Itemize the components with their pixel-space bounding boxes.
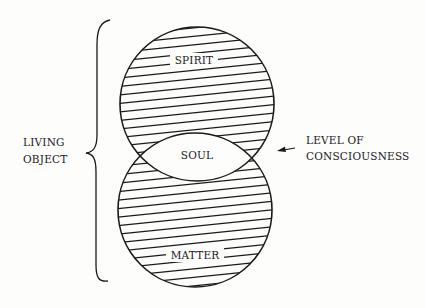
- hatch-line: [110, 87, 285, 105]
- hatch-line: [110, 112, 285, 130]
- hatch-line: [110, 183, 285, 201]
- hatch-line: [110, 209, 285, 227]
- hatch-line: [110, 95, 285, 113]
- spirit-label: SPIRIT: [175, 54, 214, 66]
- hatch-line: [110, 70, 285, 88]
- hatch-line: [110, 36, 285, 54]
- hatch-line: [110, 27, 285, 45]
- hatch-line: [110, 115, 285, 133]
- hatch-line: [110, 104, 285, 122]
- hatch-line: [110, 268, 285, 286]
- hatch-line: [110, 121, 285, 139]
- curly-brace-icon: [86, 20, 110, 281]
- hatch-line: [110, 226, 285, 244]
- hatch-line: [110, 260, 285, 278]
- level-of-consciousness-line1: LEVEL OF: [306, 134, 364, 146]
- hatch-line: [110, 192, 285, 210]
- hatch-line: [110, 200, 285, 218]
- living-object-diagram: SPIRIT SOUL MATTER LIVING OBJECT LEVEL O…: [0, 0, 425, 308]
- hatch-line: [110, 10, 285, 28]
- living-object-label-line1: LIVING: [23, 136, 65, 148]
- hatch-line: [110, 217, 285, 235]
- hatch-line: [110, 129, 285, 147]
- matter-hatching: [110, 115, 285, 303]
- level-of-consciousness-line2: CONSCIOUSNESS: [306, 150, 410, 162]
- soul-label: SOUL: [181, 149, 213, 161]
- hatch-line: [110, 180, 285, 198]
- arrow-left-icon: [277, 147, 295, 153]
- hatch-line: [110, 277, 285, 295]
- matter-label: MATTER: [171, 249, 221, 261]
- spirit-hatching: [110, 10, 285, 198]
- hatch-line: [110, 78, 285, 96]
- living-object-label-line2: OBJECT: [23, 153, 67, 165]
- hatch-line: [110, 132, 285, 150]
- hatch-line: [110, 175, 285, 193]
